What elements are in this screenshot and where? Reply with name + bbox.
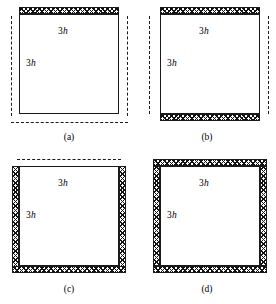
figure-four-panel-boundary-conditions: 3h 3h (a) 3h 3h (b) 3h: [0, 0, 276, 304]
panel-d-top-dimension-value: 3h: [199, 178, 209, 188]
panel-d-side-dimension-label: 3h: [167, 211, 177, 221]
panel-a-side-dimension-value: 3h: [26, 58, 36, 68]
panel-b-hatch-bottom: [160, 114, 260, 121]
panel-b-side-dimension-value: 3h: [167, 58, 177, 68]
panel-a-dashed-bottom: [11, 122, 128, 123]
panel-b: 3h 3h (b): [138, 0, 276, 152]
panel-d-hatch-left: [153, 166, 160, 266]
panel-b-side-dimension-label: 3h: [167, 59, 177, 69]
panel-a-hatch-top: [19, 7, 119, 14]
panel-a-top-dimension-label: 3h: [58, 27, 68, 37]
panel-b-dashed-left: [149, 16, 150, 114]
panel-b-dashed-right: [268, 16, 269, 114]
panel-c-side-dimension-label: 3h: [26, 211, 36, 221]
panel-a-caption: (a): [0, 133, 138, 143]
panel-d-hatch-top: [153, 159, 267, 166]
panel-d-caption: (d): [138, 285, 276, 295]
panel-d-side-dimension-value: 3h: [167, 210, 177, 220]
panel-a-dashed-right: [127, 16, 128, 116]
panel-c-caption: (c): [0, 285, 138, 295]
panel-b-hatch-top: [160, 7, 260, 14]
panel-c-top-dimension-label: 3h: [58, 179, 68, 189]
panel-d-hatch-bottom: [153, 266, 267, 273]
panel-a: 3h 3h (a): [0, 0, 138, 152]
panel-d: 3h 3h (d): [138, 152, 276, 304]
panel-a-dashed-left: [11, 16, 12, 116]
panel-c-hatch-right: [119, 166, 126, 273]
panel-b-top-dimension-value: 3h: [199, 26, 209, 36]
panel-c-hatch-bottom: [12, 266, 126, 273]
panel-b-caption: (b): [138, 133, 276, 143]
panel-c-hatch-left: [12, 166, 19, 273]
panel-a-side-dimension-label: 3h: [26, 59, 36, 69]
panel-c: 3h 3h (c): [0, 152, 138, 304]
panel-c-dashed-top: [17, 159, 121, 160]
panel-a-top-dimension-value: 3h: [58, 26, 68, 36]
panel-c-side-dimension-value: 3h: [26, 210, 36, 220]
panel-b-top-dimension-label: 3h: [199, 27, 209, 37]
panel-c-top-dimension-value: 3h: [58, 178, 68, 188]
panel-d-top-dimension-label: 3h: [199, 179, 209, 189]
panel-d-hatch-right: [260, 166, 267, 266]
